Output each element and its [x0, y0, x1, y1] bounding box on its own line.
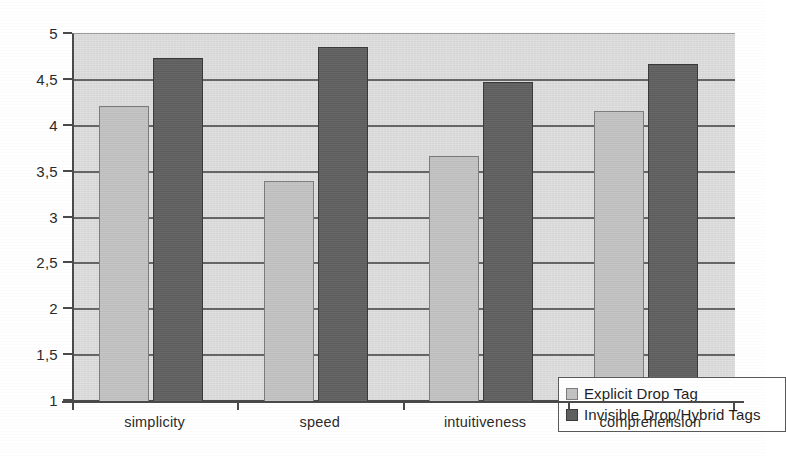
bar — [264, 181, 314, 401]
bar-texture — [430, 157, 478, 401]
bar-texture — [265, 182, 313, 401]
bar-texture — [484, 83, 532, 401]
legend-item-label: Explicit Drop Tag — [584, 385, 698, 402]
y-tick-label: 2 — [49, 300, 58, 317]
x-category-label: speed — [300, 414, 341, 430]
x-tick-mark — [72, 401, 74, 410]
x-category-label: comprehension — [600, 414, 702, 430]
y-tick-mark — [63, 78, 72, 80]
bar-texture — [100, 107, 148, 401]
plot-area: Explicit Drop Tag Invisible Drop/Hybrid … — [72, 33, 735, 401]
bar-texture — [595, 112, 643, 401]
y-tick-mark — [63, 124, 72, 126]
legend-swatch-icon — [566, 388, 578, 400]
x-tick-mark — [568, 401, 570, 410]
y-tick-label: 3,5 — [36, 162, 58, 179]
bar — [648, 64, 698, 401]
x-tick-mark — [237, 401, 239, 410]
bar — [99, 106, 149, 401]
y-axis: 11,522,533,544,55 — [0, 0, 72, 456]
y-tick-mark — [63, 307, 72, 309]
bar-texture — [649, 65, 697, 401]
bar — [153, 58, 203, 401]
bar — [594, 111, 644, 401]
y-tick-label: 3 — [49, 208, 58, 225]
y-tick-label: 2,5 — [36, 254, 58, 271]
y-tick-label: 4 — [49, 116, 58, 133]
y-tick-label: 1,5 — [36, 346, 58, 363]
x-category-label: intuitiveness — [444, 414, 526, 430]
bar — [318, 47, 368, 401]
y-tick-mark — [63, 32, 72, 34]
bar-texture — [319, 48, 367, 401]
y-tick-mark — [63, 216, 72, 218]
y-tick-label: 1 — [49, 392, 58, 409]
y-tick-label: 4,5 — [36, 70, 58, 87]
bar — [483, 82, 533, 401]
x-tick-mark — [733, 401, 735, 410]
y-tick-mark — [63, 353, 72, 355]
bar-texture — [154, 59, 202, 401]
y-tick-mark — [63, 261, 72, 263]
x-tick-mark — [403, 401, 405, 410]
bar — [429, 156, 479, 401]
y-tick-label: 5 — [49, 25, 58, 42]
y-tick-mark — [63, 170, 72, 172]
x-category-label: simplicity — [124, 414, 185, 430]
legend-swatch-icon — [566, 409, 578, 421]
